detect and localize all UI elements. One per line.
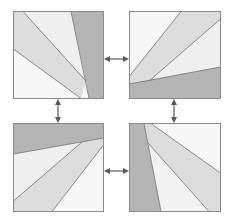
panel-bottom-right — [129, 123, 221, 212]
double-arrow-bottom-horizontal — [104, 162, 129, 180]
double-arrow-top-horizontal — [104, 50, 129, 68]
panel-bottom-left — [13, 123, 104, 212]
double-arrow-right-vertical — [169, 99, 179, 127]
fan-pattern-bottom-right — [129, 123, 221, 212]
panel-top-left — [13, 11, 104, 99]
double-arrow-left-vertical — [53, 99, 63, 127]
fan-pattern-bottom-left — [13, 123, 104, 212]
fan-pattern-top-right — [129, 11, 221, 99]
fan-pattern-top-left — [13, 11, 104, 99]
panel-top-right — [129, 11, 221, 99]
